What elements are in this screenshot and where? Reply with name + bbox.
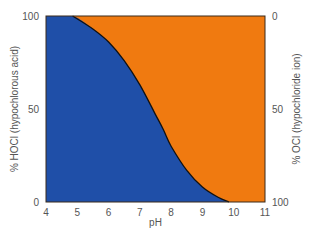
hocl-ocl-distribution-chart: 4567891011 050100 100500 pH % HOCl (hypo…	[0, 0, 312, 241]
left-y-tick-label: 50	[28, 104, 40, 115]
right-y-axis-ticks: 100500	[272, 11, 289, 208]
x-tick-label: 7	[137, 207, 143, 218]
plot-area	[46, 16, 265, 202]
x-tick-label: 10	[228, 207, 240, 218]
left-y-tick-label: 100	[22, 11, 39, 22]
x-tick-label: 9	[200, 207, 206, 218]
right-y-tick-label: 100	[272, 197, 289, 208]
x-tick-label: 4	[43, 207, 49, 218]
x-axis-label: pH	[149, 217, 162, 228]
x-tick-label: 5	[75, 207, 81, 218]
left-y-axis-ticks: 050100	[22, 11, 39, 208]
x-tick-label: 11	[260, 207, 271, 218]
right-y-tick-label: 0	[272, 11, 278, 22]
x-tick-label: 8	[168, 207, 174, 218]
right-y-tick-label: 50	[272, 104, 284, 115]
right-y-axis-label: % OCl (hypochloride ion)	[291, 53, 302, 164]
left-y-axis-label: % HOCl (hypochlorous acid)	[9, 46, 20, 172]
left-y-tick-label: 0	[33, 197, 39, 208]
x-tick-label: 6	[106, 207, 112, 218]
